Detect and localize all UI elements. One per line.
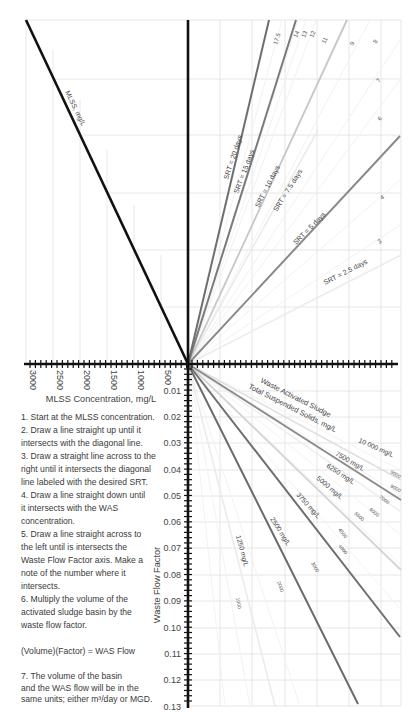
- x-tick-label: 3000: [28, 370, 38, 390]
- spacer: [21, 658, 156, 671]
- svg-text:4500: 4500: [337, 527, 349, 540]
- instruction-step-4-cont: concentration.: [21, 515, 156, 528]
- instruction-step-5: 5. Draw a line straight across to: [21, 528, 156, 541]
- instruction-step-3-cont: right until it intersects the diagonal: [21, 463, 156, 476]
- svg-text:5500: 5500: [353, 510, 365, 522]
- instruction-step-6: 6. Multiply the volume of the: [21, 593, 156, 606]
- x-axis-title: MLSS Concentration, mg/L: [46, 394, 156, 404]
- instruction-formula: (Volume)(Factor) = WAS Flow: [21, 645, 156, 658]
- instruction-step-2: 2. Draw a line straight up until it: [21, 424, 156, 437]
- svg-text:1000: 1000: [235, 597, 243, 609]
- instruction-step-4-cont: it intersects with the WAS: [21, 502, 156, 515]
- svg-text:3: 3: [377, 238, 383, 245]
- x-tick-label: 2500: [55, 370, 65, 390]
- svg-text:13: 13: [300, 29, 308, 38]
- svg-text:4000: 4000: [337, 543, 349, 556]
- svg-text:2000: 2000: [276, 580, 286, 593]
- y-axis-tick-labels: 0.01 0.02 0.03 0.04 0.05 0.06 0.07 0.08 …: [163, 386, 181, 712]
- instruction-step-4: 4. Draw a line straight down until: [21, 489, 156, 502]
- instruction-step-3: 3. Draw a straight line across to the: [21, 450, 156, 463]
- svg-text:0.06: 0.06: [163, 517, 181, 527]
- svg-text:9: 9: [349, 40, 356, 47]
- instruction-step-6-cont: activated sludge basin by the: [21, 606, 156, 619]
- svg-text:0.05: 0.05: [163, 491, 181, 501]
- svg-text:0.09: 0.09: [163, 596, 181, 606]
- srt-line-20: [188, 20, 269, 364]
- x-tick-label: 2000: [82, 370, 92, 390]
- x-tick-label: 500: [163, 370, 173, 385]
- svg-text:0.03: 0.03: [163, 438, 181, 448]
- was-title: Waste Activated Sludge Total Suspended S…: [247, 376, 338, 434]
- instruction-step-5-cont: intersects.: [21, 580, 156, 593]
- instruction-step-7-cont: same units; either m³/day or MGD.: [21, 694, 156, 706]
- instruction-step-7-cont: and the WAS flow will be in the: [21, 683, 156, 695]
- instruction-step-3-cont: line labeled with the desired SRT.: [21, 476, 156, 489]
- svg-text:0.12: 0.12: [163, 675, 181, 685]
- srt-line-7-5: [188, 130, 318, 364]
- svg-text:8: 8: [372, 38, 379, 45]
- svg-text:0.13: 0.13: [163, 702, 181, 712]
- instruction-step-5-cont: note of the number where it: [21, 567, 156, 580]
- svg-text:0.07: 0.07: [163, 543, 181, 553]
- svg-text:0.11: 0.11: [164, 649, 181, 659]
- instruction-step-6-cont: waste flow factor.: [21, 619, 156, 632]
- x-axis-tick-labels: 3000 2500 2000 1500 1000 500: [28, 370, 173, 390]
- instruction-step-2-cont: intersects with the diagonal line.: [21, 437, 156, 450]
- instruction-step-5-cont: the left until is intersects the: [21, 541, 156, 554]
- svg-text:6: 6: [376, 115, 383, 122]
- was-line-2500: [188, 364, 358, 704]
- instruction-step-5-cont: Waste Flow Factor axis. Make a: [21, 554, 156, 567]
- svg-text:0.01: 0.01: [163, 386, 181, 396]
- svg-text:17.5: 17.5: [272, 32, 282, 46]
- svg-text:0.10: 0.10: [163, 623, 181, 633]
- instruction-step-1: 1. Start at the MLSS concentration.: [21, 411, 156, 424]
- svg-text:12: 12: [308, 29, 316, 38]
- svg-text:0.08: 0.08: [163, 570, 181, 580]
- svg-text:10 000 mg/L: 10 000 mg/L: [357, 437, 395, 460]
- svg-text:0.04: 0.04: [163, 465, 181, 475]
- spacer: [21, 632, 156, 645]
- svg-text:6000: 6000: [368, 506, 381, 518]
- srt-line-15: [188, 20, 296, 364]
- svg-text:11: 11: [321, 36, 330, 45]
- x-tick-label: 1000: [136, 370, 146, 390]
- instructions-panel: 1. Start at the MLSS concentration. 2. D…: [21, 411, 156, 706]
- svg-text:14: 14: [292, 29, 300, 38]
- svg-text:0.02: 0.02: [163, 412, 181, 422]
- instruction-step-7: 7. The volume of the basin: [21, 671, 156, 683]
- x-tick-label: 1500: [109, 370, 119, 390]
- svg-text:1250 mg/L: 1250 mg/L: [234, 534, 250, 567]
- svg-text:3000: 3000: [310, 561, 321, 574]
- svg-text:SRT = 5 days: SRT = 5 days: [292, 210, 328, 246]
